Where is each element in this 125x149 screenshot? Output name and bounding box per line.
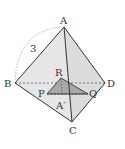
label-p: P (38, 88, 45, 99)
label-d: D (107, 78, 115, 89)
label-a: A (59, 15, 68, 26)
label-b: B (4, 78, 11, 89)
tetrahedron-diagram: A B C D R P Q A′ 3 (0, 0, 125, 149)
label-c: C (69, 125, 77, 136)
label-a-prime: A′ (55, 100, 66, 111)
label-q: Q (89, 88, 97, 99)
label-r: R (55, 67, 63, 78)
label-edge-length: 3 (30, 43, 36, 54)
